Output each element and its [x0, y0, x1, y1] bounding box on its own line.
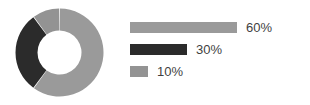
donut-chart-svg [15, 8, 104, 97]
legend-swatch-slice-3 [130, 66, 148, 77]
donut-slice-2[interactable] [15, 17, 46, 88]
legend-swatch-slice-2 [130, 44, 187, 55]
legend-item[interactable]: 10% [130, 60, 308, 82]
legend-label-slice-1: 60% [246, 21, 272, 34]
donut-chart-figure: 60% 30% 10% [0, 0, 310, 105]
donut-slice-group [15, 9, 103, 97]
legend-item[interactable]: 30% [130, 38, 308, 60]
legend-swatch-slice-1 [130, 22, 237, 33]
legend-item[interactable]: 60% [130, 16, 308, 38]
legend-label-slice-2: 30% [196, 43, 222, 56]
chart-legend: 60% 30% 10% [130, 16, 308, 91]
legend-label-slice-3: 10% [157, 65, 183, 78]
donut-chart [15, 8, 104, 97]
